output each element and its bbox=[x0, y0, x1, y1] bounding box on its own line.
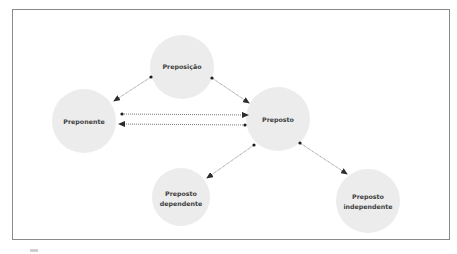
concept-diagram: Preposição Preponente Preposto Preposto … bbox=[0, 0, 457, 254]
edge-origin-dot bbox=[120, 112, 123, 115]
node-preposto: Preposto bbox=[246, 87, 310, 151]
node-label-preposto-independente-line2: independente bbox=[343, 203, 392, 211]
edge-origin-dot bbox=[298, 141, 301, 144]
node-preposicao: Preposição bbox=[150, 35, 214, 99]
edge-preposicao-to-preponente bbox=[114, 75, 153, 101]
edge-preposto-to-preponente bbox=[119, 123, 247, 126]
node-label-preposto-dependente-line2: dependente bbox=[160, 200, 203, 208]
edge-preposicao-to-preposto bbox=[210, 76, 249, 103]
node-label-preposto-independente-line1: Preposto bbox=[352, 193, 385, 201]
edge-preponente-to-preposto bbox=[120, 112, 248, 115]
node-label-preposto-dependente-line1: Preposto bbox=[165, 190, 198, 198]
node-circle bbox=[336, 169, 400, 233]
edge-preposto-to-independente bbox=[298, 141, 347, 174]
edge-origin-dot bbox=[243, 123, 246, 126]
node-label-preponente: Preponente bbox=[63, 118, 104, 126]
node-preposto-independente: Preposto independente bbox=[336, 169, 400, 233]
edge-preposto-to-dependente bbox=[207, 143, 256, 178]
node-preponente: Preponente bbox=[52, 89, 116, 153]
node-circle bbox=[152, 168, 210, 226]
node-preposto-dependente: Preposto dependente bbox=[152, 168, 210, 226]
edge-origin-dot bbox=[252, 143, 255, 146]
page-edge-mark bbox=[30, 249, 38, 252]
edge-origin-dot bbox=[149, 75, 152, 78]
node-label-preposicao: Preposição bbox=[162, 63, 202, 71]
edge-origin-dot bbox=[210, 76, 213, 79]
node-label-preposto: Preposto bbox=[262, 116, 295, 124]
